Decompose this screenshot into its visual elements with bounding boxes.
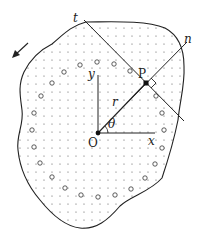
label-y-axis: y xyxy=(87,67,95,81)
origin-point xyxy=(96,131,101,136)
direction-arrow-icon xyxy=(12,43,28,58)
label-x-axis: x xyxy=(148,134,155,148)
point-P-marker xyxy=(144,81,149,86)
diagram-canvas: t n P O x y r θ xyxy=(0,0,200,246)
label-tangent: t xyxy=(73,11,78,25)
label-origin: O xyxy=(88,136,98,150)
label-theta: θ xyxy=(108,117,116,131)
label-normal: n xyxy=(184,32,192,46)
dotted-region xyxy=(0,0,200,246)
label-point-P: P xyxy=(138,67,146,81)
